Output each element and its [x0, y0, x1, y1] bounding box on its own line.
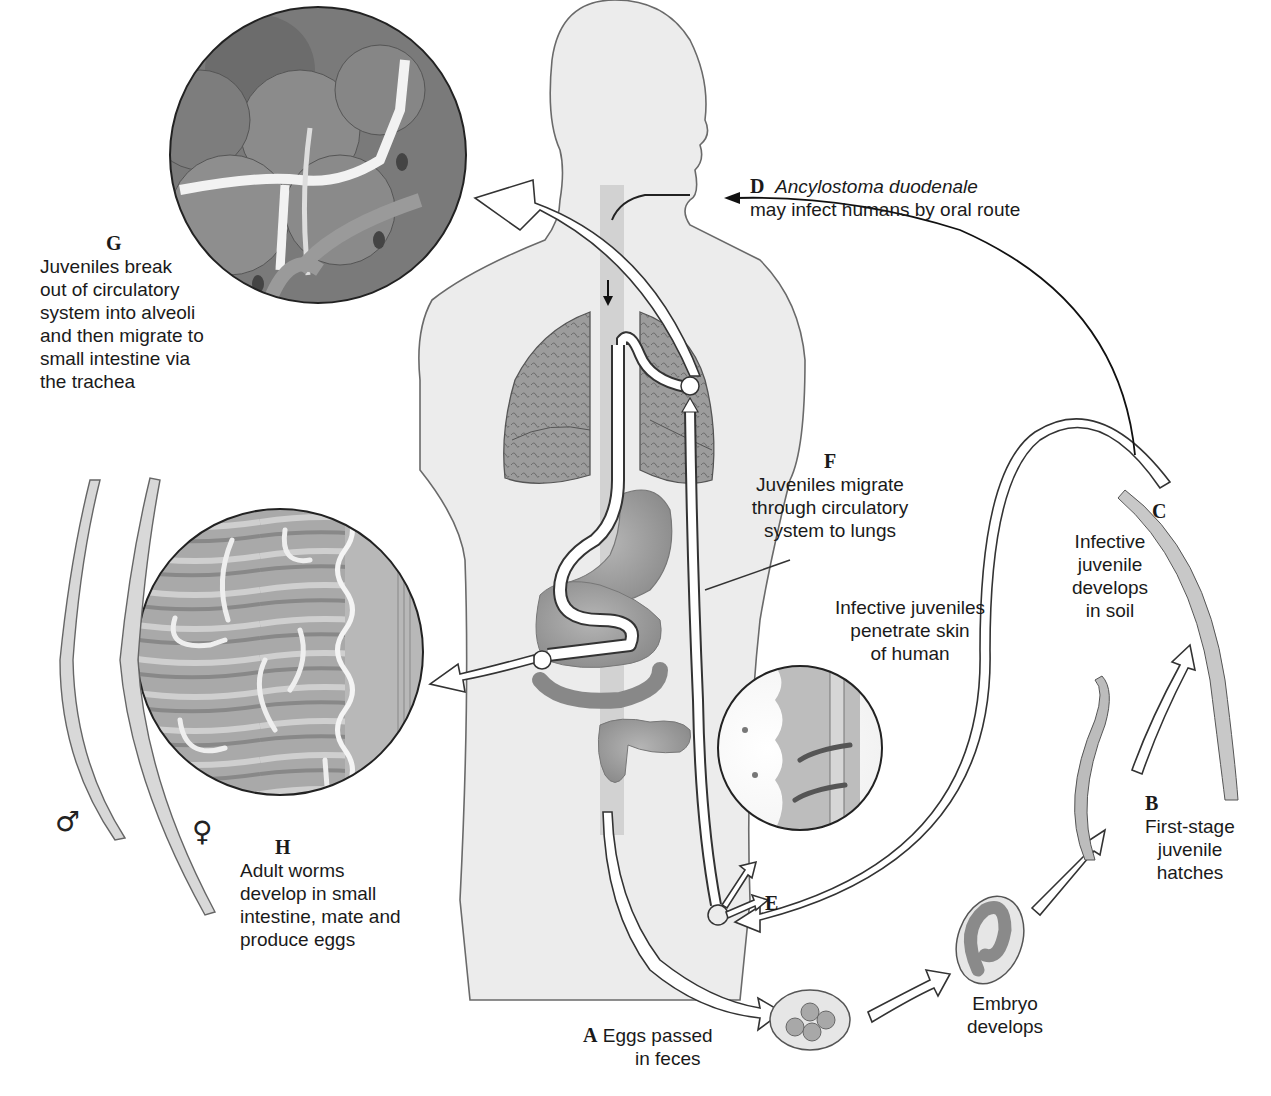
male-symbol-icon: ♂ — [55, 808, 80, 836]
embryo-label: Embryo develops — [950, 992, 1060, 1038]
female-symbol-icon: ♀ — [192, 818, 213, 846]
stage-c-letter: C — [1152, 500, 1166, 523]
stage-g-label: G Juveniles break out of circulatory sys… — [40, 232, 240, 393]
stage-e-skin-label: Infective juveniles penetrate skin of hu… — [815, 596, 1005, 665]
intestine-magnified-circle — [137, 500, 435, 800]
species-name: Ancylostoma duodenale — [775, 176, 978, 197]
stage-b-label: B First-stage juvenile hatches — [1145, 792, 1265, 884]
egg-stage-a — [770, 990, 850, 1050]
stage-f-label: F Juveniles migrate through circulatory … — [730, 450, 930, 542]
stage-h-label: H Adult worms develop in small intestine… — [240, 836, 440, 951]
stage-d-label: D Ancylostoma duodenale may infect human… — [750, 175, 1020, 221]
egg-embryo — [945, 887, 1036, 993]
stage-c-label: Infective juvenile develops in soil — [1045, 530, 1175, 622]
stage-e-letter: E — [765, 892, 778, 915]
stage-a-label: A Eggs passed in feces — [583, 1024, 763, 1070]
